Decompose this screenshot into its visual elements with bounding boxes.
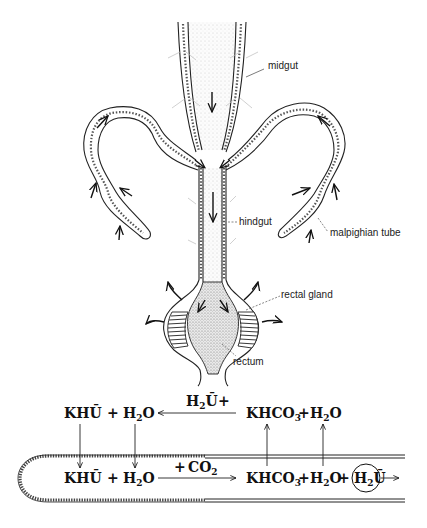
plus-top-2: + — [298, 405, 310, 421]
excretory-system-diagram: midgut malpighian tube hind — [0, 0, 427, 528]
malpighian-tube-label: malpighian tube — [330, 227, 401, 238]
reaction-top-row: KHŪ + H2O H2Ū + KHCO3 + H2O — [64, 391, 342, 423]
khco3-bottom: KHCO3 — [246, 470, 301, 488]
hindgut — [188, 165, 236, 282]
reaction-bottom-row: KHŪ + H2O + CO2 KHCO3 + H2O + H2Ū — [64, 459, 399, 492]
reaction-scheme: KHŪ + H2O H2Ū + KHCO3 + H2O KHŪ + H2O + … — [18, 391, 405, 502]
rectal-gland-label: rectal gland — [281, 289, 333, 300]
plus-bottom-2: + — [298, 470, 310, 486]
h2u-arrow-label: H2Ū — [186, 391, 218, 411]
rectum — [146, 280, 282, 386]
h2u-circled: H2Ū — [354, 468, 386, 488]
h2o-bottom-right: H2O — [310, 470, 342, 488]
co2-arrow-label-plus: + — [174, 459, 186, 475]
h2o-top-left: H2O — [123, 405, 155, 423]
h2o-bottom-left: H2O — [123, 470, 155, 488]
rectal-gland-left — [168, 312, 188, 348]
khco3-top: KHCO3 — [246, 405, 301, 423]
rectum-label: rectum — [233, 356, 264, 367]
khu-top: KHŪ — [64, 403, 102, 421]
plus-bottom-3: + — [338, 470, 350, 486]
plus-bottom-1: + — [107, 470, 119, 486]
h2u-arrow-label-plus: + — [218, 393, 230, 409]
midgut — [168, 22, 258, 152]
malpighian-tube-left — [84, 107, 205, 240]
khu-bottom: KHŪ — [64, 468, 102, 486]
rectal-gland-right — [238, 312, 258, 348]
h2o-top-right: H2O — [310, 405, 342, 423]
midgut-leader-line — [246, 69, 264, 77]
midgut-label: midgut — [268, 60, 298, 71]
co2-arrow-label: CO2 — [188, 459, 218, 477]
hindgut-label: hindgut — [239, 216, 272, 227]
malpighian-tube-leader-line — [318, 218, 328, 232]
plus-top-1: + — [107, 405, 119, 421]
